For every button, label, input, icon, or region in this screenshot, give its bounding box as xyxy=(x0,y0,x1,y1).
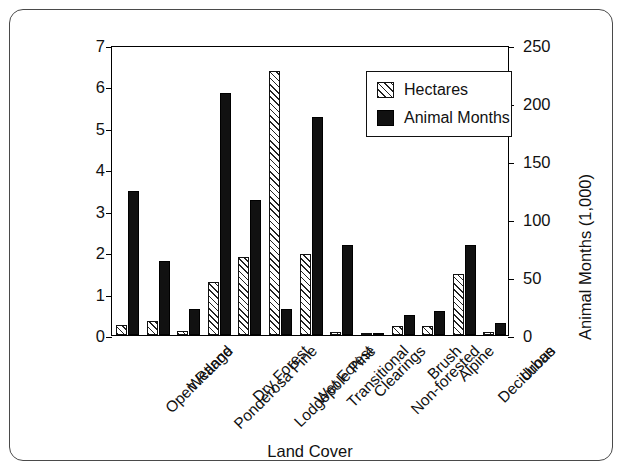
y-axis-right-tick xyxy=(508,47,514,48)
bar-animal-months xyxy=(465,245,476,335)
bar-animal-months xyxy=(404,315,415,335)
y-axis-right-tick-label: 150 xyxy=(523,154,573,171)
legend: Hectares Animal Months xyxy=(366,71,512,137)
x-axis-category-labels: Open RangeWetlandPonderosa PineDry Fores… xyxy=(111,336,509,446)
bar-animal-months xyxy=(373,333,384,335)
bar-animal-months xyxy=(342,245,353,335)
legend-swatch-solid-icon xyxy=(377,110,394,126)
y-axis-left-tick-label: 0 xyxy=(65,328,105,345)
bar-animal-months xyxy=(250,200,261,335)
bar-hectares xyxy=(330,332,341,335)
bar-hectares xyxy=(392,326,403,335)
y-axis-left-tick xyxy=(106,171,112,172)
bar-animal-months xyxy=(281,309,292,335)
bar-hectares xyxy=(361,333,372,335)
y-axis-left-tick-label: 5 xyxy=(65,121,105,138)
legend-entry-animal-months: Animal Months xyxy=(377,108,510,128)
y-axis-right-tick xyxy=(508,279,514,280)
bar-animal-months xyxy=(495,323,506,335)
bar-hectares xyxy=(238,257,249,335)
bar-group xyxy=(207,47,235,335)
bar-group xyxy=(146,47,174,335)
bar-animal-months xyxy=(312,117,323,335)
y-axis-left-tick-label: 7 xyxy=(65,38,105,55)
bar-hectares xyxy=(422,326,433,335)
bar-animal-months xyxy=(220,93,231,335)
bar-group xyxy=(237,47,265,335)
bar-hectares xyxy=(269,71,280,335)
figure-frame: Millions of Hectares Animal Months (1,00… xyxy=(9,9,613,461)
y-axis-right-tick xyxy=(508,163,514,164)
bar-animal-months xyxy=(189,309,200,335)
bar-animal-months xyxy=(434,311,445,335)
y-axis-left-tick xyxy=(106,296,112,297)
y-axis-left-tick-label: 4 xyxy=(65,162,105,179)
y-axis-right-tick-label: 50 xyxy=(523,270,573,287)
y-axis-right-tick xyxy=(508,221,514,222)
y-axis-right-tick-label: 250 xyxy=(523,38,573,55)
bar-group xyxy=(268,47,296,335)
bar-group xyxy=(329,47,357,335)
y-axis-left-tick xyxy=(106,213,112,214)
y-axis-left-tick xyxy=(106,88,112,89)
y-axis-right-tick-label: 200 xyxy=(523,96,573,113)
bar-hectares xyxy=(147,321,158,335)
y-axis-right-tick-label: 0 xyxy=(523,328,573,345)
y-axis-left-tick-label: 2 xyxy=(65,245,105,262)
bar-group xyxy=(299,47,327,335)
y-axis-left-tick xyxy=(106,130,112,131)
legend-swatch-hatched-icon xyxy=(377,82,394,98)
bar-hectares xyxy=(453,274,464,335)
bar-hectares xyxy=(208,282,219,335)
y-axis-left-tick-label: 1 xyxy=(65,287,105,304)
x-axis-title: Land Cover xyxy=(111,442,509,461)
bar-hectares xyxy=(116,325,127,335)
y-axis-right-title: Animal Months (1,000) xyxy=(576,40,595,340)
y-axis-left-tick-label: 6 xyxy=(65,79,105,96)
bar-hectares xyxy=(483,332,494,335)
legend-entry-hectares: Hectares xyxy=(377,80,468,100)
y-axis-left-tick xyxy=(106,254,112,255)
bar-hectares xyxy=(300,254,311,335)
x-axis-tick-label: Dry Forest xyxy=(249,342,313,406)
x-axis-tick-label: Alpine xyxy=(455,342,498,385)
bar-animal-months xyxy=(159,261,170,335)
bar-group xyxy=(176,47,204,335)
x-axis-tick-label: Urban xyxy=(516,342,559,385)
legend-label-hectares: Hectares xyxy=(404,81,468,99)
bar-group xyxy=(115,47,143,335)
plot-area: Hectares Animal Months xyxy=(111,46,509,336)
bar-animal-months xyxy=(128,191,139,335)
y-axis-left-tick-label: 3 xyxy=(65,204,105,221)
bar-hectares xyxy=(177,331,188,335)
x-axis-tick-label: Wetland xyxy=(183,342,236,395)
legend-label-animal-months: Animal Months xyxy=(404,109,510,127)
y-axis-right-tick-label: 100 xyxy=(523,212,573,229)
y-axis-left-tick xyxy=(106,47,112,48)
